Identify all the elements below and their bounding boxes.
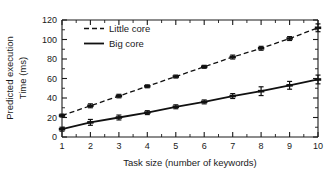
y-axis-title-line1: Predicted execution (4, 36, 15, 119)
y-tick-label: 20 (47, 113, 57, 123)
x-tick-label: 2 (88, 141, 93, 151)
x-tick-label: 7 (230, 141, 235, 151)
y-tick-label: 40 (47, 93, 57, 103)
legend-label-little-core: Little core (109, 23, 150, 34)
x-tick-label: 3 (116, 141, 121, 151)
x-tick-label: 9 (287, 141, 292, 151)
x-axis-title: Task size (number of keywords) (123, 157, 257, 168)
x-tick-label: 10 (313, 141, 323, 151)
chart-figure: 0 20 40 60 80 100 120 1 2 3 4 5 6 7 8 9 … (0, 0, 330, 172)
y-tick-label: 0 (52, 132, 57, 142)
legend-label-big-core: Big core (109, 38, 144, 49)
x-tick-label: 5 (173, 141, 178, 151)
x-tick-label: 1 (59, 141, 64, 151)
y-tick-label: 120 (42, 15, 57, 25)
x-tick-label: 8 (259, 141, 264, 151)
y-tick-label: 100 (42, 35, 57, 45)
y-axis-title-line2: Time (ms) (17, 57, 28, 99)
x-tick-label: 4 (145, 141, 150, 151)
y-tick-label: 80 (47, 54, 57, 64)
figure-background (0, 0, 330, 172)
y-tick-label: 60 (47, 74, 57, 84)
x-tick-label: 6 (202, 141, 207, 151)
